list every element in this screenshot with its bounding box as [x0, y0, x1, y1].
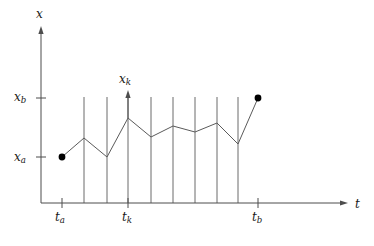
- path-polyline: [62, 98, 258, 157]
- x-tick-label-ta: ta: [55, 211, 65, 225]
- x-tick-label-tk: tk: [122, 211, 132, 225]
- figure-canvas: x t xb xa xk ta tk tb: [0, 0, 374, 246]
- start-point: [59, 154, 66, 161]
- x-tick-label-tb: tb: [252, 211, 262, 225]
- xk-arrowhead-icon: [125, 90, 130, 98]
- y-tick-label-xa: xa: [14, 151, 26, 165]
- endpoint-dots-group: [59, 95, 262, 161]
- y-axis-arrowhead-icon: [38, 26, 43, 34]
- x-axis-label: t: [355, 198, 360, 210]
- xk-arrow-group: [125, 90, 130, 118]
- x-axis-arrowhead-icon: [340, 200, 348, 205]
- y-tick-label-xb: xb: [14, 91, 26, 105]
- y-axis-label: x: [36, 8, 43, 20]
- axes-group: [38, 26, 348, 206]
- xk-label: xk: [119, 73, 131, 87]
- grid-lines-group: [84, 97, 238, 203]
- tick-marks-group: [36, 98, 258, 208]
- end-point: [255, 95, 262, 102]
